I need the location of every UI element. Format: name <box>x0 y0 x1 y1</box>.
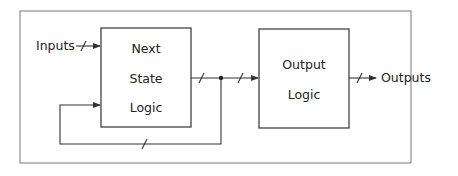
fsm-diagram: Next State Logic Output Logic Inputs Out… <box>0 0 458 176</box>
next-state-label-line3: Logic <box>130 100 163 115</box>
outputs-label: Outputs <box>381 70 431 85</box>
next-state-logic-block: Next State Logic <box>101 28 191 127</box>
next-state-label-line1: Next <box>131 41 160 56</box>
output-logic-block: Output Logic <box>259 29 349 128</box>
output-logic-label-line2: Logic <box>288 87 321 102</box>
inputs-label: Inputs <box>36 38 75 53</box>
next-state-label-line2: State <box>129 71 162 86</box>
outer-frame <box>20 11 411 163</box>
output-logic-label-line1: Output <box>282 57 326 72</box>
